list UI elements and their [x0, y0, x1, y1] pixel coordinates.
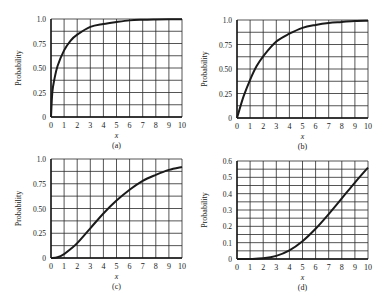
x-tick-label: 1: [62, 121, 66, 130]
x-tick-label: 10: [178, 121, 186, 130]
y-tick-label: 0.3: [223, 206, 233, 215]
x-tick-label: 6: [314, 263, 318, 272]
x-tick-label: 2: [75, 121, 79, 130]
x-tick-label: 9: [353, 122, 357, 131]
grid-lines: [237, 20, 368, 118]
x-tick-label: 2: [75, 262, 79, 271]
x-tick-label: 5: [301, 263, 305, 272]
x-tick-label: 7: [141, 121, 145, 130]
x-tick-label: 8: [340, 263, 344, 272]
x-tick-label: 9: [167, 262, 171, 271]
y-tick-label: 0.75: [219, 41, 232, 50]
y-axis-label: Probability: [14, 191, 23, 227]
x-tick-label: 8: [154, 262, 158, 271]
chart-panel-a: 01234567891000.250.500.751.0x(a)Probabil…: [14, 15, 186, 150]
grid-lines: [237, 161, 368, 259]
x-tick-label: 6: [128, 262, 132, 271]
y-tick-label: 0.1: [223, 239, 233, 248]
x-tick-label: 9: [167, 121, 171, 130]
x-tick-label: 4: [287, 122, 291, 131]
x-tick-label: 8: [154, 121, 158, 130]
y-tick-label: 0: [228, 255, 232, 264]
x-tick-label: 0: [235, 122, 239, 131]
grid-lines: [51, 19, 182, 117]
x-tick-label: 10: [178, 262, 186, 271]
y-tick-label: 1.0: [37, 155, 47, 164]
y-tick-label: 0.2: [223, 222, 233, 231]
y-tick-label: 0.75: [33, 180, 46, 189]
x-tick-label: 1: [248, 122, 252, 131]
x-tick-label: 6: [314, 122, 318, 131]
y-axis-label: Probability: [200, 192, 209, 228]
y-tick-label: 0: [228, 114, 232, 123]
x-tick-label: 7: [327, 122, 331, 131]
y-tick-label: 0.50: [219, 65, 232, 74]
y-tick-label: 1.0: [223, 16, 233, 25]
y-tick-label: 1.0: [37, 15, 47, 24]
y-tick-label: 0.75: [33, 40, 46, 49]
y-axis-label: Probability: [200, 51, 209, 87]
panel-caption: (b): [298, 142, 308, 151]
panel-caption: (d): [298, 283, 308, 292]
x-tick-label: 3: [274, 263, 278, 272]
x-tick-label: 9: [353, 263, 357, 272]
x-tick-label: 10: [364, 122, 372, 131]
chart-panel-d: 01234567891000.10.20.30.40.50.6x(d)Proba…: [200, 157, 372, 292]
chart-panel-b: 01234567891000.250.500.751.0x(b)Probabil…: [200, 16, 372, 151]
x-tick-label: 7: [327, 263, 331, 272]
y-tick-label: 0: [42, 254, 46, 263]
panel-caption: (a): [112, 141, 121, 150]
y-tick-label: 0: [42, 113, 46, 122]
x-tick-label: 1: [248, 263, 252, 272]
x-tick-label: 3: [88, 121, 92, 130]
x-axis-label: x: [300, 132, 305, 141]
x-tick-label: 2: [261, 263, 265, 272]
x-tick-label: 10: [364, 263, 372, 272]
x-tick-label: 3: [274, 122, 278, 131]
y-tick-label: 0.25: [33, 89, 46, 98]
x-tick-label: 0: [235, 263, 239, 272]
x-axis-label: x: [114, 131, 119, 140]
y-tick-label: 0.5: [223, 173, 233, 182]
x-tick-label: 5: [115, 121, 119, 130]
y-tick-label: 0.6: [223, 157, 233, 166]
y-tick-label: 0.50: [33, 205, 46, 214]
x-axis-label: x: [300, 273, 305, 282]
x-tick-label: 0: [49, 121, 53, 130]
x-tick-label: 2: [261, 122, 265, 131]
y-tick-label: 0.25: [33, 229, 46, 238]
chart-panel-c: 01234567891000.250.500.751.0x(c)Probabil…: [14, 155, 186, 291]
x-tick-label: 3: [88, 262, 92, 271]
x-tick-label: 6: [128, 121, 132, 130]
x-axis-label: x: [114, 272, 119, 281]
y-tick-label: 0.50: [33, 64, 46, 73]
y-tick-label: 0.25: [219, 90, 232, 99]
figure-canvas: 01234567891000.250.500.751.0x(a)Probabil…: [0, 0, 390, 303]
x-tick-label: 5: [115, 262, 119, 271]
x-tick-label: 7: [141, 262, 145, 271]
x-tick-label: 8: [340, 122, 344, 131]
x-tick-label: 4: [101, 121, 105, 130]
y-axis-label: Probability: [14, 50, 23, 86]
y-tick-label: 0.4: [223, 190, 233, 199]
x-tick-label: 0: [49, 262, 53, 271]
x-tick-label: 4: [101, 262, 105, 271]
x-tick-label: 1: [62, 262, 66, 271]
x-tick-label: 4: [287, 263, 291, 272]
x-tick-label: 5: [301, 122, 305, 131]
panel-caption: (c): [112, 282, 121, 291]
grid-lines: [51, 159, 182, 258]
